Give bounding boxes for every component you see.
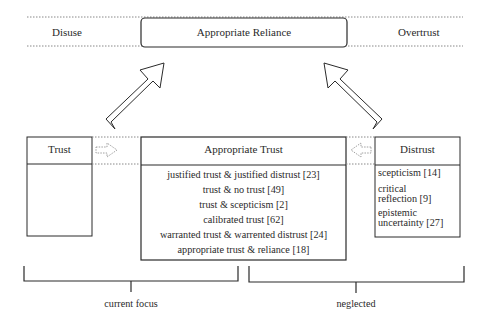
list-item: calibrated trust [62] [141, 212, 346, 227]
neglected-label: neglected [306, 298, 406, 309]
list-item: appropriate trust & reliance [18] [141, 242, 346, 257]
list-item: trust & no trust [49] [141, 182, 346, 197]
current-focus-bracket [24, 266, 238, 281]
distrust-box-title: Distrust [375, 143, 460, 155]
appropriate-trust-list: justified trust & justified distrust [23… [141, 167, 346, 257]
list-item: trust & scepticism [2] [141, 197, 346, 212]
disuse-label: Disuse [52, 26, 82, 38]
distrust-item-line: reflection [9] [378, 194, 431, 204]
distrust-item: epistemic uncertainty [27] [378, 208, 443, 227]
overtrust-label: Overtrust [398, 26, 440, 38]
current-focus-label: current focus [81, 298, 181, 309]
dotted-left-arrow-icon [351, 143, 371, 157]
distrust-item: critical reflection [9] [378, 184, 431, 203]
distrust-item-line: scepticism [14] [378, 168, 441, 178]
dotted-right-arrow-icon [96, 143, 117, 157]
list-item: justified trust & justified distrust [23… [141, 167, 346, 182]
distrust-item-line: uncertainty [27] [378, 218, 443, 228]
diagram-canvas [0, 0, 483, 325]
list-item: warranted trust & warrented distrust [24… [141, 227, 346, 242]
neglected-bracket [249, 266, 464, 282]
distrust-item: scepticism [14] [378, 168, 441, 178]
appropriate-reliance-label: Appropriate Reliance [141, 26, 347, 38]
right-up-arrow-icon [324, 63, 382, 129]
left-up-arrow-icon [106, 63, 164, 129]
trust-box-title: Trust [27, 143, 92, 155]
appropriate-trust-title: Appropriate Trust [141, 143, 346, 155]
